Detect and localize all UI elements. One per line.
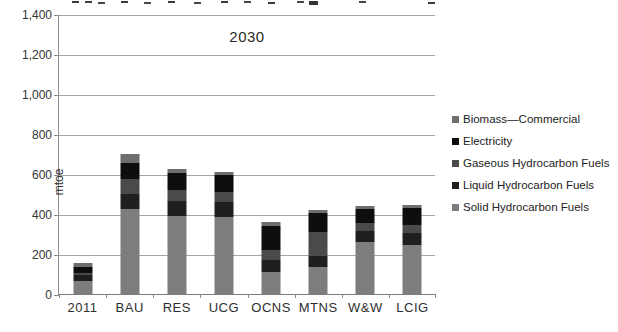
- bar-segment: [356, 231, 375, 242]
- x-axis-tick: [59, 294, 60, 298]
- category-slot: MTNS: [295, 15, 342, 294]
- x-axis-tick: [295, 294, 296, 298]
- legend-item: Solid Hydrocarbon Fuels: [452, 200, 609, 214]
- category-slot: OCNS: [248, 15, 295, 294]
- x-axis-tick: [342, 294, 343, 298]
- stacked-bar-2011: [73, 263, 92, 294]
- bar-segment: [262, 272, 281, 294]
- legend-label: Solid Hydrocarbon Fuels: [463, 201, 589, 213]
- stacked-bar-W&W: [356, 206, 375, 294]
- bar-segment: [309, 267, 328, 294]
- y-axis-tick-label: 1,000: [8, 88, 52, 102]
- bar-segment: [120, 179, 139, 194]
- legend-swatch-icon: [452, 182, 459, 189]
- legend-item: Gaseous Hydrocarbon Fuels: [452, 156, 609, 170]
- plot-area: 2030 mtoe 02004006008001,0001,2001,40020…: [58, 15, 435, 295]
- bar-segment: [262, 250, 281, 260]
- stacked-bar-MTNS: [309, 210, 328, 294]
- x-axis-tick: [200, 294, 201, 298]
- stacked-bar-RES: [167, 169, 186, 294]
- x-axis-label: MTNS: [295, 300, 342, 315]
- bar-segment: [262, 226, 281, 250]
- bar-segment: [120, 154, 139, 163]
- category-slot: RES: [153, 15, 200, 294]
- legend-label: Biomass—Commercial: [463, 113, 580, 125]
- bar-segment: [167, 190, 186, 201]
- bar-segment: [356, 242, 375, 294]
- legend-label: Electricity: [463, 135, 512, 147]
- bar-segment: [120, 163, 139, 179]
- bar-segment: [167, 216, 186, 294]
- bar-segment: [120, 209, 139, 294]
- stacked-bar-OCNS: [262, 222, 281, 294]
- x-axis-label: LCIG: [389, 300, 436, 315]
- y-axis-tick-label: 200: [8, 248, 52, 262]
- legend-swatch-icon: [452, 204, 459, 211]
- category-slot: LCIG: [389, 15, 436, 294]
- stacked-bar-UCG: [214, 172, 233, 294]
- y-axis-tick-label: 800: [8, 128, 52, 142]
- x-axis-tick: [106, 294, 107, 298]
- bar-segment: [262, 260, 281, 272]
- y-axis-tick-label: 600: [8, 168, 52, 182]
- y-axis-tick-label: 1,400: [8, 8, 52, 22]
- bar-segment: [356, 209, 375, 223]
- legend-swatch-icon: [452, 138, 459, 145]
- bar-segment: [167, 173, 186, 190]
- y-axis-tick-label: 0: [8, 288, 52, 302]
- x-axis-tick: [248, 294, 249, 298]
- legend: Biomass—CommercialElectricityGaseous Hyd…: [452, 112, 609, 222]
- legend-item: Biomass—Commercial: [452, 112, 609, 126]
- bar-segment: [120, 194, 139, 209]
- x-axis-tick: [435, 294, 436, 298]
- y-axis-tick-label: 400: [8, 208, 52, 222]
- figure: 2030 mtoe 02004006008001,0001,2001,40020…: [0, 0, 618, 332]
- bar-segment: [214, 175, 233, 192]
- category-slot: BAU: [106, 15, 153, 294]
- bar-segment: [403, 233, 422, 245]
- bar-segment: [403, 245, 422, 294]
- bar-segment: [167, 201, 186, 216]
- category-slot: UCG: [200, 15, 247, 294]
- legend-swatch-icon: [452, 160, 459, 167]
- bar-segment: [309, 213, 328, 232]
- x-axis-tick: [389, 294, 390, 298]
- bar-segment: [214, 202, 233, 217]
- bar-segment: [214, 192, 233, 202]
- x-axis-label: BAU: [106, 300, 153, 315]
- x-axis-label: W&W: [342, 300, 389, 315]
- bar-segment: [403, 225, 422, 233]
- category-slot: 2011: [59, 15, 106, 294]
- bar-segment: [403, 208, 422, 225]
- x-axis-label: UCG: [200, 300, 247, 315]
- bar-segment: [309, 232, 328, 256]
- legend-item: Electricity: [452, 134, 609, 148]
- legend-swatch-icon: [452, 116, 459, 123]
- category-slot: W&W: [342, 15, 389, 294]
- stacked-bar-BAU: [120, 154, 139, 294]
- bar-segment: [214, 217, 233, 294]
- legend-item: Liquid Hydrocarbon Fuels: [452, 178, 609, 192]
- x-axis-label: RES: [153, 300, 200, 315]
- bar-segment: [73, 281, 92, 294]
- x-axis-label: OCNS: [248, 300, 295, 315]
- y-axis-tick-label: 1,200: [8, 48, 52, 62]
- legend-label: Gaseous Hydrocarbon Fuels: [463, 157, 609, 169]
- clipped-caption-fragment: [0, 0, 618, 5]
- x-axis-label: 2011: [59, 300, 106, 315]
- x-axis-tick: [153, 294, 154, 298]
- bar-segment: [309, 256, 328, 267]
- legend-label: Liquid Hydrocarbon Fuels: [463, 179, 594, 191]
- bar-segment: [356, 223, 375, 231]
- stacked-bar-LCIG: [403, 205, 422, 294]
